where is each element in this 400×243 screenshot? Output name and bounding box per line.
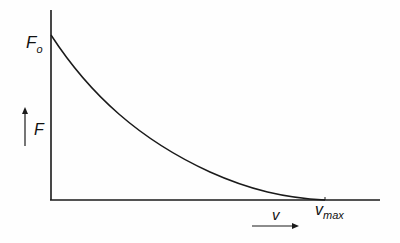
vmax-label: vmax xyxy=(315,201,344,221)
velocity-axis-label: v xyxy=(272,206,281,223)
f0-label: Fo xyxy=(26,33,43,55)
velocity-arrow-icon xyxy=(252,223,299,229)
force-velocity-curve xyxy=(51,35,325,200)
diagram-canvas: Fo F v vmax xyxy=(0,0,400,243)
force-velocity-diagram: Fo F v vmax xyxy=(0,0,400,243)
force-arrow-icon xyxy=(22,107,28,146)
force-axis-label: F xyxy=(34,121,45,138)
